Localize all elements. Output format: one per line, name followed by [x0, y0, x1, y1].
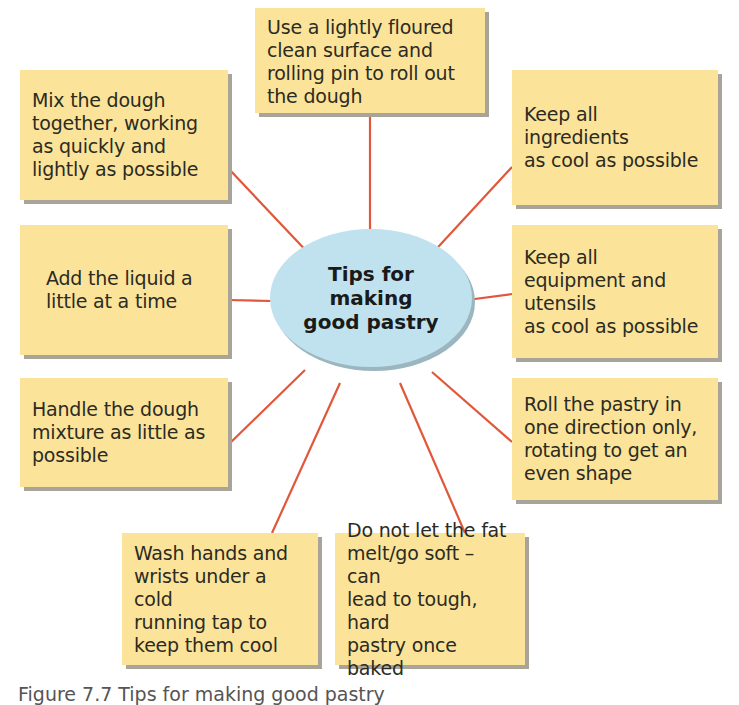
tip-text: Mix the dough together, working as quick… [32, 89, 198, 181]
tip-text: Handle the dough mixture as little as po… [32, 398, 205, 467]
tip-box-bottom-left: Wash hands and wrists under a cold runni… [122, 533, 318, 665]
tip-text: Do not let the fat melt/go soft – can le… [347, 519, 513, 680]
tip-box-bottom-right: Do not let the fat melt/go soft – can le… [335, 533, 525, 665]
tip-text: Use a lightly floured clean surface and … [267, 16, 455, 108]
connector-left-2 [228, 300, 272, 301]
tip-box-left-1: Mix the dough together, working as quick… [20, 70, 228, 200]
tip-text: Keep all ingredients as cool as possible [524, 103, 706, 172]
tip-box-right-2: Keep all equipment and utensils as cool … [512, 225, 718, 358]
tip-text: Keep all equipment and utensils as cool … [524, 246, 698, 338]
connector-right-1 [428, 167, 512, 258]
connector-bottom-right [400, 383, 465, 533]
connector-right-3 [432, 372, 512, 442]
tip-text: Wash hands and wrists under a cold runni… [134, 542, 306, 657]
tip-box-left-2: Add the liquid a little at a time [20, 225, 228, 355]
connector-left-3 [228, 370, 305, 445]
center-topic-label: Tips for making good pastry [303, 262, 438, 334]
tip-text: Roll the pastry in one direction only, r… [524, 393, 697, 485]
tip-box-top: Use a lightly floured clean surface and … [255, 8, 485, 113]
connector-bottom-left [272, 383, 340, 533]
center-topic-ellipse: Tips for making good pastry [270, 229, 472, 367]
tip-box-right-1: Keep all ingredients as cool as possible [512, 70, 718, 205]
figure-caption: Figure 7.7 Tips for making good pastry [18, 683, 385, 705]
connector-left-1 [228, 168, 313, 258]
tip-box-right-3: Roll the pastry in one direction only, r… [512, 378, 718, 500]
connector-right-2 [467, 294, 512, 300]
tip-box-left-3: Handle the dough mixture as little as po… [20, 378, 228, 487]
tip-text: Add the liquid a little at a time [46, 267, 193, 313]
